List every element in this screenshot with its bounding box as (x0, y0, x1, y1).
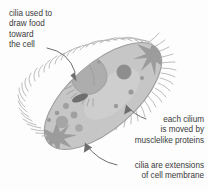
food-vacuole (128, 89, 133, 94)
food-vacuole (114, 104, 118, 108)
label-line: cilia used to (9, 9, 52, 18)
label-line: of cell membrane (142, 171, 204, 180)
food-vacuole (97, 60, 101, 64)
macronucleus (117, 65, 132, 80)
food-vacuole (63, 103, 69, 109)
label-line: cilia are extensions (135, 161, 204, 170)
food-vacuole (75, 124, 83, 132)
food-vacuole (140, 76, 144, 80)
label-cilia-draw-food: cilia used todraw foodtowardthe cell (9, 9, 52, 50)
label-cilia-are-extensions: cilia are extensionsof cell membrane (100, 161, 204, 182)
food-vacuole (55, 111, 60, 116)
food-vacuole (56, 116, 68, 128)
label-line: the cell (9, 40, 35, 49)
label-line: musclelike proteins (135, 136, 204, 145)
food-vacuole (47, 118, 51, 122)
food-vacuole (71, 112, 78, 119)
label-line: is moved by (161, 125, 204, 134)
paramecium-diagram: cilia used todraw foodtowardthe cell eac… (0, 0, 208, 191)
label-each-cilium-moved: each ciliumis moved bymusclelike protein… (128, 115, 204, 146)
label-line: toward (9, 30, 33, 39)
label-line: draw food (9, 19, 45, 28)
label-line: each cilium (163, 115, 204, 124)
